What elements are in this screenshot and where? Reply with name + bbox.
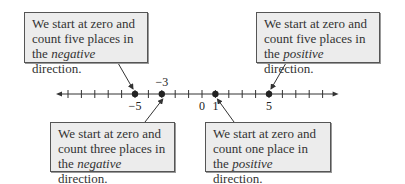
callout-pos1: We start at zero and count one place in … (205, 122, 331, 172)
callout-neg3: We start at zero and count three places … (50, 122, 175, 172)
callout-text: count five places in (264, 31, 372, 46)
callout-neg5: We start at zero and count five places i… (24, 12, 148, 63)
svg-text:−3: −3 (155, 75, 168, 89)
callout-text: the negative direction. (58, 156, 167, 184)
callout-text: the positive direction. (264, 46, 372, 76)
svg-text:5: 5 (266, 99, 272, 113)
svg-text:−5: −5 (129, 99, 142, 113)
callout-text: the positive direction. (213, 156, 323, 184)
callout-pos5: We start at zero and count five places i… (256, 12, 380, 63)
number-line-axis (56, 90, 339, 98)
callout-text: count one place in (213, 141, 323, 156)
callout-text: count five places in (32, 31, 140, 46)
callout-text: count three places in (58, 141, 167, 156)
callout-text: We start at zero and (32, 16, 140, 31)
callout-text: the negative direction. (32, 46, 140, 76)
callout-text: We start at zero and (213, 126, 323, 141)
svg-text:0: 0 (199, 99, 205, 113)
callout-text: We start at zero and (264, 16, 372, 31)
callout-text: We start at zero and (58, 126, 167, 141)
svg-text:1: 1 (212, 99, 218, 113)
